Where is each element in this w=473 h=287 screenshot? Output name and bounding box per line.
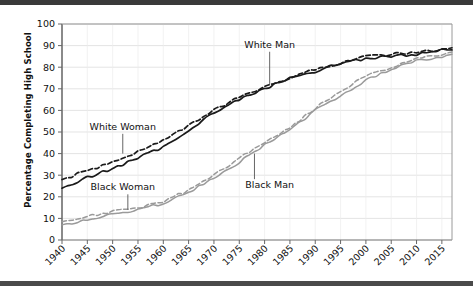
- y-tick-label: 100: [37, 18, 55, 29]
- x-tick-label: 1940: [43, 243, 68, 268]
- data-series-group: [62, 48, 452, 225]
- y-tick-label: 80: [43, 62, 55, 73]
- annotation-label-black-woman: Black Woman: [91, 181, 155, 192]
- line-chart-svg: 0102030405060708090100 19401945195019551…: [0, 5, 473, 281]
- x-tick-label: 2005: [372, 243, 397, 268]
- series-annotations-group: White WomanWhite ManBlack WomanBlack Man: [90, 39, 295, 210]
- x-tick-label: 1975: [220, 243, 245, 268]
- y-tick-label: 30: [43, 170, 55, 181]
- series-line-black-man: [62, 54, 452, 225]
- series-line-black-woman: [62, 52, 452, 222]
- tick-marks-group: [58, 24, 442, 244]
- x-tick-label: 1960: [144, 243, 169, 268]
- y-tick-label: 60: [43, 105, 55, 116]
- x-tick-label: 2015: [422, 243, 447, 268]
- y-tick-label: 90: [43, 40, 55, 51]
- series-line-white-man: [62, 49, 452, 188]
- x-tick-label: 1995: [321, 243, 346, 268]
- x-tick-label: 2000: [346, 243, 371, 268]
- y-tick-label: 40: [43, 148, 55, 159]
- x-tick-label: 1990: [296, 243, 321, 268]
- chart-plot-region: Percentage Completing High School 010203…: [0, 5, 473, 281]
- y-tick-label: 50: [43, 126, 55, 137]
- x-tick-label: 1955: [119, 243, 144, 268]
- x-tick-label: 1970: [194, 243, 219, 268]
- x-tick-label: 1950: [93, 243, 118, 268]
- figure-canvas: Percentage Completing High School 010203…: [0, 0, 473, 287]
- x-tick-labels-group: 1940194519501955196019651970197519801985…: [43, 243, 448, 268]
- y-tick-label: 10: [43, 213, 55, 224]
- annotation-label-black-man: Black Man: [245, 179, 294, 190]
- x-tick-label: 2010: [397, 243, 422, 268]
- y-tick-label: 20: [43, 191, 55, 202]
- y-tick-label: 70: [43, 83, 55, 94]
- y-tick-label: 0: [49, 234, 55, 245]
- y-tick-labels-group: 0102030405060708090100: [37, 18, 55, 245]
- x-tick-label: 1985: [270, 243, 295, 268]
- annotation-label-white-woman: White Woman: [90, 121, 156, 132]
- bottom-divider-bar: [0, 281, 473, 286]
- x-tick-label: 1945: [68, 243, 93, 268]
- x-tick-label: 1965: [169, 243, 194, 268]
- annotation-label-white-man: White Man: [244, 39, 295, 50]
- x-tick-label: 1980: [245, 243, 270, 268]
